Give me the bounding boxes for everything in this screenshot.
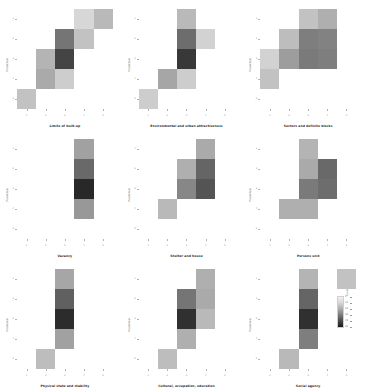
heatmap-cell <box>158 9 177 29</box>
heatmap-cell <box>74 309 93 329</box>
x-tick-mark <box>206 369 207 371</box>
x-tick-mark <box>327 369 328 371</box>
heatmap-cell <box>36 219 55 239</box>
heatmap-figure: Predicted1234512345Limits of built-upPre… <box>0 0 365 390</box>
heatmap-cell <box>260 29 279 49</box>
heatmap-cell <box>94 139 113 159</box>
heatmap-cell <box>318 289 337 309</box>
y-tick-label: 4 <box>8 339 14 340</box>
panel-plot-area <box>139 139 235 239</box>
heatmap-cell <box>196 49 215 69</box>
panel-ylabel: Predicted <box>249 188 252 201</box>
heatmap-cell <box>36 9 55 29</box>
heatmap-cell <box>55 289 74 309</box>
heatmap-cell <box>318 269 337 289</box>
panel-ylabel: Predicted <box>6 188 9 201</box>
panel-plot-area <box>17 269 113 369</box>
heatmap-cell <box>299 89 318 109</box>
heatmap-cell <box>337 269 356 289</box>
heatmap-cell <box>139 139 158 159</box>
y-tick-label: 2 <box>130 299 136 300</box>
x-tick-mark <box>46 109 47 111</box>
x-tick-label: 5 <box>224 374 225 377</box>
heatmap-cell <box>177 199 196 219</box>
y-tick-mark <box>258 79 260 80</box>
heatmap-cell <box>158 69 177 89</box>
heatmap-cell <box>299 199 318 219</box>
y-tick-mark <box>137 339 139 340</box>
heatmap-cell <box>260 9 279 29</box>
heatmap-cell <box>55 9 74 29</box>
x-tick-mark <box>327 239 328 241</box>
heatmap-cells <box>260 9 356 109</box>
heatmap-cell <box>94 309 113 329</box>
panel-ylabel: Predicted <box>6 318 9 331</box>
heatmap-panel: Predicted1234512345Environmental and urb… <box>122 0 244 130</box>
y-tick-label: 3 <box>251 59 257 60</box>
heatmap-cell <box>260 269 279 289</box>
y-tick-mark <box>137 19 139 20</box>
heatmap-cell <box>299 29 318 49</box>
heatmap-cell <box>279 69 298 89</box>
y-tick-mark <box>15 359 17 360</box>
y-tick-label: 5 <box>130 359 136 360</box>
heatmap-cell <box>337 29 356 49</box>
heatmap-cell <box>139 349 158 369</box>
heatmap-cell <box>158 349 177 369</box>
y-tick-mark <box>137 149 139 150</box>
y-tick-mark <box>137 169 139 170</box>
heatmap-cell <box>94 89 113 109</box>
x-tick-mark <box>148 369 149 371</box>
heatmap-cell <box>139 269 158 289</box>
x-tick-label: 3 <box>307 244 308 247</box>
y-tick-label: 1 <box>8 19 14 20</box>
heatmap-cell <box>17 89 36 109</box>
y-tick-mark <box>137 209 139 210</box>
x-tick-label: 1 <box>26 114 27 117</box>
heatmap-cell <box>279 9 298 29</box>
heatmap-cell <box>279 289 298 309</box>
heatmap-cell <box>279 159 298 179</box>
y-tick-mark <box>15 59 17 60</box>
heatmap-cell <box>177 179 196 199</box>
heatmap-cell <box>94 69 113 89</box>
y-tick-label: 3 <box>8 189 14 190</box>
y-tick-label: 4 <box>8 79 14 80</box>
heatmap-cell <box>74 159 93 179</box>
x-tick-label: 5 <box>102 374 103 377</box>
heatmap-cell <box>55 89 74 109</box>
heatmap-cell <box>260 139 279 159</box>
heatmap-cell <box>158 179 177 199</box>
heatmap-cell <box>17 269 36 289</box>
x-tick-mark <box>27 109 28 111</box>
heatmap-cell <box>196 89 215 109</box>
x-tick-label: 4 <box>205 374 206 377</box>
x-tick-mark <box>308 369 309 371</box>
x-tick-mark <box>46 239 47 241</box>
y-tick-mark <box>15 279 17 280</box>
heatmap-cell <box>36 309 55 329</box>
panel-plot-area <box>260 9 356 109</box>
x-tick-label: 5 <box>346 244 347 247</box>
colorbar-tick-labels: 01020304050 <box>343 294 357 328</box>
heatmap-cell <box>196 179 215 199</box>
x-tick-mark <box>270 109 271 111</box>
heatmap-cell <box>74 219 93 239</box>
x-tick-label: 2 <box>167 244 168 247</box>
heatmap-cell <box>74 349 93 369</box>
x-tick-mark <box>46 369 47 371</box>
panel-ylabel: Predicted <box>6 58 9 71</box>
x-tick-label: 2 <box>45 374 46 377</box>
heatmap-cell <box>74 329 93 349</box>
heatmap-cell <box>158 49 177 69</box>
y-tick-mark <box>15 189 17 190</box>
heatmap-cell <box>318 69 337 89</box>
heatmap-cell <box>17 139 36 159</box>
y-tick-mark <box>258 169 260 170</box>
heatmap-panel: Predicted1234512345Sectors and definite … <box>243 0 365 130</box>
y-tick-mark <box>137 79 139 80</box>
heatmap-cell <box>94 49 113 69</box>
x-tick-label: 1 <box>269 244 270 247</box>
heatmap-cell <box>299 349 318 369</box>
heatmap-cell <box>36 199 55 219</box>
